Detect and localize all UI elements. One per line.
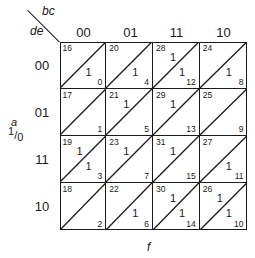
minterm-number-top: 30 [156,184,165,194]
split-bottom-value: 0 [17,131,23,143]
minterm-number-bottom: 4 [144,77,149,87]
map-cell: 281112 [153,42,200,89]
minterm-number-bottom: 0 [98,77,103,87]
row-label-11: 11 [28,152,56,167]
map-cell: 2115 [106,89,153,136]
map-cell: 2014 [106,42,153,89]
map-cell: 1610 [60,42,107,89]
minterm-number-top: 16 [63,43,72,53]
cell-value-bottom: 1 [226,207,232,219]
minterm-number-bottom: 2 [98,219,103,229]
minterm-number-top: 28 [156,43,165,53]
cell-value-top: 1 [170,51,176,63]
minterm-number-bottom: 1 [98,124,103,134]
cell-value-bottom: 1 [132,207,138,219]
minterm-number-top: 25 [203,90,212,100]
cell-value-top: 1 [77,145,83,157]
column-label-11: 11 [153,25,200,40]
cell-value-bottom: 1 [226,66,232,78]
minterm-number-bottom: 10 [234,219,243,229]
minterm-number-bottom: 14 [186,219,195,229]
minterm-number-top: 19 [63,137,72,147]
cell-value-bottom: 1 [86,66,92,78]
cell-value-top: 1 [170,145,176,157]
cell-value-bottom: 1 [179,207,185,219]
minterm-number-bottom: 6 [144,219,149,229]
cell-value-bottom: 1 [226,160,232,172]
map-cell: 171 [60,89,107,136]
map-cell: 2317 [106,136,153,183]
row-label-01: 01 [28,105,56,120]
cell-value-top: 1 [170,98,176,110]
minterm-number-top: 20 [109,43,118,53]
map-cell: 301114 [153,183,200,230]
minterm-number-top: 29 [156,90,165,100]
output-function-label: f [147,240,150,254]
minterm-number-bottom: 7 [144,171,149,181]
row-label-10: 10 [28,199,56,214]
map-cell: 259 [200,89,247,136]
cell-value-top: 1 [217,192,223,204]
minterm-number-top: 26 [203,184,212,194]
map-cell: 31115 [153,136,200,183]
column-label-00: 00 [60,25,107,40]
minterm-number-bottom: 3 [98,171,103,181]
minterm-number-bottom: 15 [186,171,195,181]
map-cell: 29113 [153,89,200,136]
cell-value-bottom: 1 [86,160,92,172]
cell-value-top: 1 [170,192,176,204]
minterm-number-bottom: 8 [239,77,244,87]
minterm-number-bottom: 9 [239,124,244,134]
minterm-number-top: 21 [109,90,118,100]
minterm-number-top: 17 [63,90,72,100]
minterm-number-bottom: 13 [186,124,195,134]
column-label-01: 01 [107,25,154,40]
minterm-number-top: 27 [203,137,212,147]
minterm-number-bottom: 5 [144,124,149,134]
map-cell: 27111 [200,136,247,183]
karnaugh-map-grid: 1610201428111224181712115291132591911323… [60,42,247,230]
map-cell: 2418 [200,42,247,89]
map-cell: 261110 [200,183,247,230]
split-values-fraction: 1/0 [8,128,23,142]
map-cell: 2216 [106,183,153,230]
column-label-10: 10 [200,25,247,40]
corner-label-bc: bc [42,4,55,18]
cell-value-bottom: 1 [132,66,138,78]
minterm-number-bottom: 12 [186,77,195,87]
map-cell: 19113 [60,136,107,183]
row-label-00: 00 [28,58,56,73]
minterm-number-top: 22 [109,184,118,194]
minterm-number-top: 23 [109,137,118,147]
cell-value-bottom: 1 [179,66,185,78]
minterm-number-top: 24 [203,43,212,53]
split-top-value: 1 [8,125,14,137]
minterm-number-top: 31 [156,137,165,147]
cell-value-top: 1 [123,98,129,110]
minterm-number-bottom: 11 [235,171,244,181]
map-cell: 182 [60,183,107,230]
cell-value-top: 1 [123,145,129,157]
minterm-number-top: 18 [63,184,72,194]
corner-label-de: de [30,24,43,38]
